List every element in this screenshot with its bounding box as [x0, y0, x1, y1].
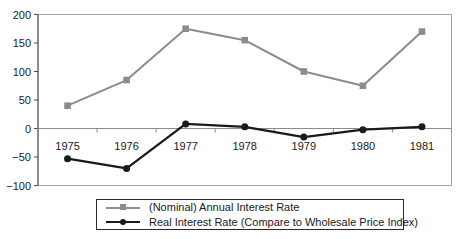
data-point-marker	[300, 134, 307, 141]
data-point-marker	[123, 165, 130, 172]
legend-label-nominal: (Nominal) Annual Interest Rate	[149, 201, 299, 213]
data-point-marker	[360, 82, 367, 89]
x-tick-label: 1977	[173, 140, 197, 152]
data-point-marker	[64, 155, 71, 162]
x-tick-label: 1978	[233, 140, 257, 152]
legend-item-nominal: (Nominal) Annual Interest Rate	[97, 200, 403, 215]
data-point-marker	[123, 77, 130, 84]
x-tick-label: 1980	[351, 140, 375, 152]
interest-rate-line-chart: 200150100500−50−100197519761977197819791…	[0, 0, 460, 239]
legend-label-real: Real Interest Rate (Compare to Wholesale…	[149, 216, 418, 228]
x-tick-label: 1976	[114, 140, 138, 152]
square-marker-icon	[120, 204, 126, 210]
data-point-marker	[419, 28, 426, 35]
real-series-swatch	[106, 217, 140, 226]
y-tick-label: −50	[12, 151, 31, 163]
data-point-marker	[241, 123, 248, 130]
data-point-marker	[182, 25, 189, 32]
y-tick-label: 0	[25, 123, 31, 135]
x-tick-label: 1981	[410, 140, 434, 152]
y-tick-label: 100	[13, 66, 31, 78]
y-axis: 200150100500−50−100	[6, 9, 38, 192]
data-point-marker	[64, 102, 71, 109]
nominal-series-swatch	[106, 203, 140, 212]
data-point-marker	[301, 68, 308, 75]
legend-item-real: Real Interest Rate (Compare to Wholesale…	[97, 215, 403, 230]
data-point-marker	[241, 37, 248, 44]
x-tick-label: 1975	[55, 140, 79, 152]
chart-plot-area: 200150100500−50−100197519761977197819791…	[0, 0, 460, 192]
y-tick-label: −100	[6, 180, 31, 192]
data-point-marker	[418, 123, 425, 130]
x-tick-label: 1979	[292, 140, 316, 152]
circle-marker-icon	[120, 219, 126, 225]
chart-legend: (Nominal) Annual Interest Rate Real Inte…	[96, 199, 404, 230]
data-point-marker	[359, 126, 366, 133]
data-point-marker	[182, 120, 189, 127]
y-tick-label: 200	[13, 9, 31, 21]
y-tick-label: 150	[13, 37, 31, 49]
y-tick-label: 50	[19, 94, 31, 106]
